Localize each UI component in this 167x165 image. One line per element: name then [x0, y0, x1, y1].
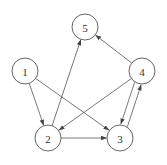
edge-2-to-5: [52, 40, 81, 126]
edge-4-to-2: [59, 79, 131, 131]
node-4: 4: [129, 58, 155, 84]
edge-3-to-4: [127, 85, 141, 127]
node-label: 3: [117, 133, 123, 145]
directed-graph: 12345: [0, 0, 167, 165]
edge-4-to-3: [121, 82, 135, 124]
edge-4-to-5: [96, 35, 132, 63]
node-label: 5: [82, 22, 88, 34]
node-label: 2: [45, 133, 51, 145]
node-label: 1: [22, 66, 28, 78]
node-2: 2: [35, 125, 61, 151]
edges: [29, 35, 141, 138]
node-5: 5: [72, 14, 98, 40]
node-3: 3: [107, 125, 133, 151]
nodes: 12345: [12, 14, 155, 151]
node-label: 4: [139, 66, 145, 78]
node-1: 1: [12, 58, 38, 84]
edge-1-to-3: [36, 78, 109, 130]
edge-1-to-2: [29, 83, 43, 125]
